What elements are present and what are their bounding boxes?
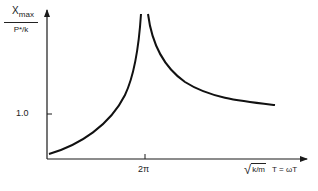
y-axis-label: Xmax P*/k xyxy=(4,6,38,34)
curve-right-branch xyxy=(148,14,275,105)
x-axis-label: √k/mT = ωT xyxy=(244,163,297,176)
x-label-radicand: k/m xyxy=(251,163,266,174)
y-label-x: X xyxy=(12,5,19,16)
curve-left-branch xyxy=(49,14,141,154)
y-tick-label: 1.0 xyxy=(16,109,29,118)
x-label-rest: T = ωT xyxy=(272,165,297,174)
y-label-sub: max xyxy=(19,10,34,19)
y-label-denominator: P*/k xyxy=(4,26,38,34)
fraction-bar xyxy=(4,22,38,23)
x-tick-label: 2π xyxy=(138,165,149,174)
y-label-numerator: Xmax xyxy=(4,6,38,19)
